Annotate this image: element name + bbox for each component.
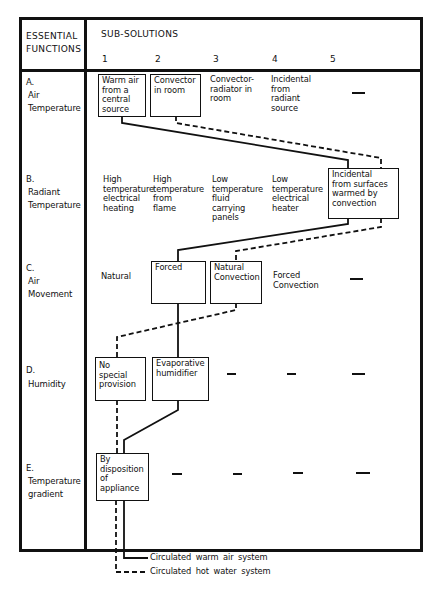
cell-c2-text: Forced [152, 262, 205, 273]
cell-d3-empty-dash [227, 373, 236, 375]
cell-d4-empty-dash [287, 373, 296, 375]
cell-b4-text: Low temperature electrical heater [272, 175, 323, 213]
cell-c4-text: Forced Convection [273, 271, 319, 290]
cell-d1-box: No special provision [95, 357, 146, 401]
cell-b3-text: Low temperature fluid carrying panels [212, 175, 263, 223]
cell-d1-text: No special provision [96, 358, 145, 390]
cell-d2-text: Evaporative humidifier [153, 358, 208, 378]
cell-b1-text: High temperature electrical heating [103, 175, 154, 213]
cell-e5-empty-dash [356, 472, 370, 474]
cell-a3-text: Convector- radiator in room [210, 75, 254, 104]
legend-warm-air-label: Circulated warm air system [150, 553, 268, 563]
cell-c3-box: Natural Convection [210, 261, 262, 304]
cell-a2-text: Convector in room [151, 75, 200, 95]
cell-a2-box: Convector in room [150, 74, 201, 117]
cell-c1-text: Natural [101, 272, 131, 282]
cell-b5-box: Incidental from surfaces warmed by conve… [328, 168, 399, 219]
cell-a4-text: Incidental from radiant source [271, 75, 311, 113]
cell-c3-text: Natural Convection [211, 262, 261, 282]
hot-water-path [176, 116, 381, 168]
warm-air-path [122, 116, 348, 168]
cell-c2-box: Forced [151, 261, 206, 304]
cell-b5-text: Incidental from surfaces warmed by conve… [329, 169, 398, 208]
cell-d5-empty-dash [352, 373, 365, 375]
cell-c5-empty-dash [350, 278, 363, 280]
cell-e1-box: By disposition of appliance [96, 453, 149, 501]
cell-b2-text: High temperature from flame [153, 175, 204, 213]
cell-e3-empty-dash [233, 473, 242, 475]
cell-e4-empty-dash [293, 472, 303, 474]
cell-a1-box: Warm air from a central source [98, 74, 146, 117]
cell-a1-text: Warm air from a central source [99, 75, 145, 114]
legend-hot-water-label: Circulated hot water system [150, 567, 271, 577]
cell-e1-text: By disposition of appliance [97, 454, 148, 493]
cell-e2-empty-dash [172, 473, 182, 475]
cell-a5-empty-dash [352, 92, 365, 94]
cell-d2-box: Evaporative humidifier [152, 357, 209, 401]
